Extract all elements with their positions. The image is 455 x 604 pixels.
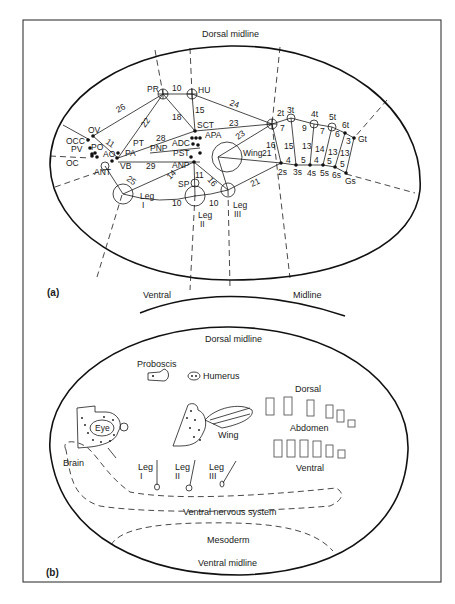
eye-label: Eye — [95, 423, 110, 433]
node-label-wing: Wing — [243, 148, 263, 158]
distance-pa-anp: 29 — [146, 161, 156, 171]
node-label-gs: Gs — [345, 176, 356, 186]
node-label-5s: 5s — [320, 168, 329, 178]
distance-pr-hu: 10 — [172, 83, 182, 93]
distance-3t-4t: 9 — [302, 123, 307, 133]
leg-ii-num-b: II — [175, 471, 180, 481]
dorsal-midline-label-a: Dorsal midline — [202, 29, 259, 39]
humerus-label: Humerus — [203, 371, 240, 381]
dorsal-midline-label-b: Dorsal midline — [205, 334, 262, 344]
ventral-label-b: Ventral — [296, 463, 324, 473]
panel-a-label: (a) — [47, 287, 59, 298]
wing-disc — [212, 142, 242, 172]
distance-5t-5s: 14 — [315, 144, 325, 154]
humerus-disc — [188, 372, 200, 380]
node-label-gt: Gt — [358, 134, 368, 144]
node-label-oc: OC — [66, 158, 79, 168]
distance-sct-2t: 23 — [229, 118, 239, 128]
distance-anp-sp: 11 — [195, 170, 204, 180]
panel-a: Dorsal midline Ventral Midline (a) — [47, 29, 420, 316]
node-label-3t: 3t — [287, 105, 295, 115]
distance-leg-iii-2s: 21 — [249, 176, 262, 189]
node-label-6t: 6t — [342, 120, 350, 130]
distance-hu-sct: 15 — [195, 105, 205, 115]
distance-pr-pt: 22 — [138, 115, 152, 129]
distance-3s-4s: 5 — [301, 155, 306, 165]
distance-apa-2t: 23 — [233, 128, 247, 142]
abdomen-label: Abdomen — [290, 423, 329, 433]
brain-label: Brain — [63, 458, 84, 468]
node-label-4s: 4s — [307, 168, 316, 178]
distance-3t-3s: 15 — [284, 141, 294, 151]
node-label-anp: ANP — [172, 160, 190, 170]
mesoderm-label: Mesoderm — [207, 535, 250, 545]
node-label-pst: PST — [173, 148, 190, 158]
boundary-line — [354, 100, 387, 138]
distance-ov-ao: 11 — [104, 136, 117, 149]
boundary-line — [346, 174, 415, 193]
node-label-apa: APA — [205, 130, 222, 140]
fate-map-figure: Dorsal midline Ventral Midline (a) — [0, 0, 455, 604]
distance-gt-gs: 13 — [340, 148, 350, 158]
node-label-ant: ANT — [94, 167, 111, 177]
node-label-4t: 4t — [311, 109, 319, 119]
node-label-leg-i-num: I — [142, 200, 144, 210]
panel-b: Dorsal midline Proboscis Humerus Eye Win… — [46, 327, 408, 578]
node-label-pr: PR — [147, 84, 159, 94]
panel-b-label: (b) — [46, 567, 59, 578]
leg-i-num-b: I — [140, 471, 143, 481]
node-label-sp: SP — [178, 179, 190, 189]
node-label-leg-ii-num: II — [200, 219, 205, 229]
node-label-ao: AO — [103, 149, 116, 159]
ventral-label: Ventral — [143, 290, 171, 300]
wing-label-b: Wing — [218, 430, 239, 440]
distance-pr-sct: 18 — [172, 112, 182, 122]
node-label-leg-iii-num: III — [234, 209, 241, 219]
distance-4s-5s: 4 — [314, 155, 319, 165]
node-label-6s: 6s — [332, 170, 341, 180]
abdomen-ventral-segments — [274, 440, 345, 458]
node-label-2t: 2t — [277, 108, 285, 118]
embryo-outline-a — [50, 46, 420, 280]
node-label-2s: 2s — [278, 167, 287, 177]
ventral-midline-label: Ventral midline — [198, 558, 257, 568]
vns-label: Ventral nervous system — [183, 507, 277, 517]
boundary-line — [97, 195, 122, 277]
boundary-line — [228, 190, 230, 288]
node-label-pnp: PNP — [150, 143, 168, 153]
node-label-sct: SCT — [197, 120, 214, 130]
distance-5s-6s: 5 — [327, 156, 332, 166]
distance-6t-gt: 3 — [346, 136, 351, 146]
node-label-pt: PT — [133, 138, 144, 148]
boundary-line — [190, 195, 195, 290]
proboscis-label: Proboscis — [137, 359, 177, 369]
distance-4t-5t: 7 — [320, 126, 325, 136]
distance-pt-sct: 28 — [156, 133, 166, 143]
node-label-3s: 3s — [293, 167, 302, 177]
node-label-po: PO — [91, 142, 104, 152]
distance-leg-i-leg-ii: 10 — [172, 198, 182, 208]
boundary-line — [190, 48, 192, 94]
distance-leg-ii-leg-iii: 10 — [209, 198, 219, 208]
distance-5t-6t: 6 — [335, 129, 340, 139]
proboscis-disc — [148, 369, 169, 381]
node-label-vb: VB — [120, 161, 132, 171]
dorsal-label-b: Dorsal — [295, 384, 321, 394]
leg-iii-num-b: III — [209, 471, 217, 481]
distance-pr-ov: 26 — [114, 101, 127, 115]
distance-anp-leg-iii: 16 — [205, 175, 219, 189]
distance-4t-4s: 13 — [302, 141, 312, 151]
node-label-ov: OV — [88, 125, 101, 135]
node-label-pa: PA — [125, 148, 136, 158]
midline-label: Midline — [293, 290, 322, 300]
node-label-5t: 5t — [329, 112, 337, 122]
node-label-pv: PV — [71, 144, 83, 154]
node-label-adc: ADC — [172, 138, 190, 148]
distance-2s-3s: 4 — [286, 155, 291, 165]
distance-6s-gs: 5 — [340, 159, 345, 169]
distance-2t-2s: 16 — [266, 140, 276, 150]
distance-2t-3t: 7 — [280, 123, 285, 133]
node-label-hu: HU — [198, 85, 210, 95]
